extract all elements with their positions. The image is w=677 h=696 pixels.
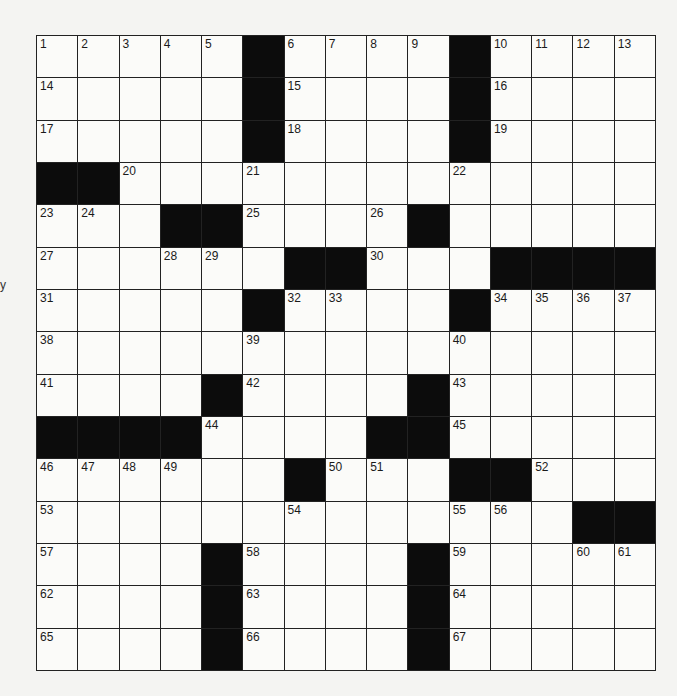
grid-cell[interactable]: 65 (37, 629, 77, 670)
grid-cell[interactable] (615, 121, 655, 162)
grid-cell[interactable] (120, 544, 160, 585)
grid-cell[interactable]: 21 (243, 163, 283, 204)
grid-cell[interactable] (408, 163, 448, 204)
grid-cell[interactable] (120, 332, 160, 373)
grid-cell[interactable] (573, 459, 613, 500)
grid-cell[interactable]: 33 (326, 290, 366, 331)
grid-cell[interactable]: 40 (450, 332, 490, 373)
grid-cell[interactable]: 50 (326, 459, 366, 500)
grid-cell[interactable] (615, 375, 655, 416)
grid-cell[interactable] (285, 332, 325, 373)
grid-cell[interactable]: 53 (37, 502, 77, 543)
grid-cell[interactable]: 19 (491, 121, 531, 162)
grid-cell[interactable] (161, 78, 201, 119)
grid-cell[interactable]: 32 (285, 290, 325, 331)
grid-cell[interactable] (326, 629, 366, 670)
grid-cell[interactable] (532, 586, 572, 627)
grid-cell[interactable] (573, 163, 613, 204)
grid-cell[interactable]: 61 (615, 544, 655, 585)
grid-cell[interactable] (243, 459, 283, 500)
grid-cell[interactable] (78, 629, 118, 670)
grid-cell[interactable]: 54 (285, 502, 325, 543)
grid-cell[interactable] (532, 163, 572, 204)
grid-cell[interactable] (78, 332, 118, 373)
grid-cell[interactable]: 14 (37, 78, 77, 119)
grid-cell[interactable] (532, 629, 572, 670)
grid-cell[interactable] (161, 586, 201, 627)
grid-cell[interactable] (285, 375, 325, 416)
grid-cell[interactable]: 51 (367, 459, 407, 500)
grid-cell[interactable] (367, 163, 407, 204)
grid-cell[interactable] (120, 78, 160, 119)
grid-cell[interactable] (78, 78, 118, 119)
grid-cell[interactable] (532, 502, 572, 543)
grid-cell[interactable] (161, 544, 201, 585)
grid-cell[interactable]: 42 (243, 375, 283, 416)
grid-cell[interactable] (202, 163, 242, 204)
grid-cell[interactable]: 49 (161, 459, 201, 500)
grid-cell[interactable] (78, 121, 118, 162)
grid-cell[interactable] (326, 332, 366, 373)
grid-cell[interactable] (408, 248, 448, 289)
grid-cell[interactable] (326, 544, 366, 585)
grid-cell[interactable] (202, 121, 242, 162)
grid-cell[interactable]: 58 (243, 544, 283, 585)
grid-cell[interactable] (202, 502, 242, 543)
grid-cell[interactable]: 37 (615, 290, 655, 331)
grid-cell[interactable] (573, 121, 613, 162)
grid-cell[interactable] (243, 248, 283, 289)
grid-cell[interactable] (491, 586, 531, 627)
grid-cell[interactable] (615, 629, 655, 670)
grid-cell[interactable]: 34 (491, 290, 531, 331)
grid-cell[interactable] (491, 417, 531, 458)
grid-cell[interactable] (491, 205, 531, 246)
grid-cell[interactable] (367, 502, 407, 543)
grid-cell[interactable] (120, 375, 160, 416)
grid-cell[interactable] (573, 586, 613, 627)
grid-cell[interactable]: 67 (450, 629, 490, 670)
grid-cell[interactable]: 8 (367, 36, 407, 77)
grid-cell[interactable] (367, 629, 407, 670)
grid-cell[interactable]: 5 (202, 36, 242, 77)
grid-cell[interactable] (78, 544, 118, 585)
grid-cell[interactable]: 35 (532, 290, 572, 331)
grid-cell[interactable] (573, 629, 613, 670)
grid-cell[interactable] (326, 121, 366, 162)
grid-cell[interactable]: 46 (37, 459, 77, 500)
grid-cell[interactable]: 56 (491, 502, 531, 543)
grid-cell[interactable]: 38 (37, 332, 77, 373)
grid-cell[interactable] (367, 78, 407, 119)
grid-cell[interactable]: 20 (120, 163, 160, 204)
grid-cell[interactable] (408, 502, 448, 543)
grid-cell[interactable] (161, 629, 201, 670)
grid-cell[interactable]: 17 (37, 121, 77, 162)
grid-cell[interactable]: 55 (450, 502, 490, 543)
grid-cell[interactable] (326, 417, 366, 458)
grid-cell[interactable] (161, 502, 201, 543)
grid-cell[interactable]: 64 (450, 586, 490, 627)
grid-cell[interactable] (450, 248, 490, 289)
grid-cell[interactable] (367, 544, 407, 585)
grid-cell[interactable] (202, 332, 242, 373)
grid-cell[interactable] (573, 375, 613, 416)
grid-cell[interactable]: 1 (37, 36, 77, 77)
grid-cell[interactable] (367, 586, 407, 627)
grid-cell[interactable] (120, 290, 160, 331)
grid-cell[interactable]: 4 (161, 36, 201, 77)
grid-cell[interactable]: 25 (243, 205, 283, 246)
grid-cell[interactable] (491, 332, 531, 373)
grid-cell[interactable] (161, 375, 201, 416)
grid-cell[interactable] (573, 78, 613, 119)
grid-cell[interactable]: 7 (326, 36, 366, 77)
grid-cell[interactable] (161, 332, 201, 373)
grid-cell[interactable]: 28 (161, 248, 201, 289)
grid-cell[interactable] (285, 544, 325, 585)
grid-cell[interactable] (532, 544, 572, 585)
grid-cell[interactable] (367, 290, 407, 331)
grid-cell[interactable] (202, 290, 242, 331)
grid-cell[interactable] (326, 163, 366, 204)
grid-cell[interactable] (326, 78, 366, 119)
grid-cell[interactable] (120, 502, 160, 543)
grid-cell[interactable]: 16 (491, 78, 531, 119)
grid-cell[interactable] (243, 417, 283, 458)
